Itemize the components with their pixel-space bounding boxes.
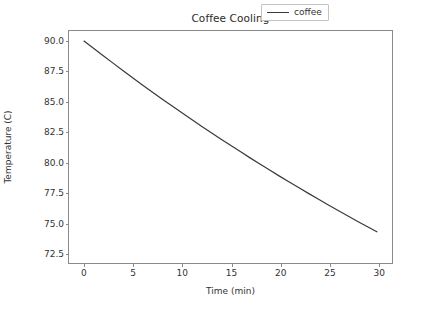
x-tick-label: 30	[373, 268, 384, 278]
y-tick-mark	[66, 71, 70, 72]
legend-line-swatch	[267, 12, 289, 13]
x-tick-mark	[232, 263, 233, 267]
chart-figure: Coffee Cooling Temperature (C) 72.575.07…	[0, 0, 421, 313]
x-tick-mark	[281, 263, 282, 267]
y-tick-mark	[66, 41, 70, 42]
x-tick-label: 25	[324, 268, 335, 278]
y-axis-label: Temperature (C)	[0, 30, 16, 264]
y-tick-label: 75.0	[44, 219, 64, 229]
y-tick-label: 90.0	[44, 36, 64, 46]
y-tick-mark	[66, 193, 70, 194]
y-tick-label: 82.5	[44, 127, 64, 137]
y-tick-mark	[66, 132, 70, 133]
y-tick-label: 87.5	[44, 66, 64, 76]
y-tick-mark	[66, 224, 70, 225]
x-tick-label: 20	[275, 268, 286, 278]
y-tick-label: 80.0	[44, 158, 64, 168]
x-tick-label: 0	[81, 268, 87, 278]
chart-title: Coffee Cooling	[68, 12, 393, 24]
plot-area: 72.575.077.580.082.585.087.590.005101520…	[68, 30, 393, 264]
x-tick-label: 10	[177, 268, 188, 278]
y-tick-mark	[66, 163, 70, 164]
y-axis-label-text: Temperature (C)	[3, 110, 13, 183]
y-tick-mark	[66, 102, 70, 103]
line-series-coffee	[84, 41, 378, 232]
x-tick-mark	[84, 263, 85, 267]
chart-legend: coffee	[261, 4, 329, 21]
x-tick-mark	[133, 263, 134, 267]
y-tick-label: 77.5	[44, 188, 64, 198]
x-tick-mark	[379, 263, 380, 267]
x-tick-label: 15	[226, 268, 237, 278]
x-axis-label: Time (min)	[68, 286, 393, 296]
x-tick-mark	[330, 263, 331, 267]
y-tick-label: 85.0	[44, 97, 64, 107]
line-series-svg	[69, 31, 392, 263]
x-tick-label: 5	[130, 268, 136, 278]
y-tick-mark	[66, 254, 70, 255]
y-tick-label: 72.5	[44, 249, 64, 259]
x-tick-mark	[182, 263, 183, 267]
legend-label-coffee: coffee	[294, 8, 322, 17]
